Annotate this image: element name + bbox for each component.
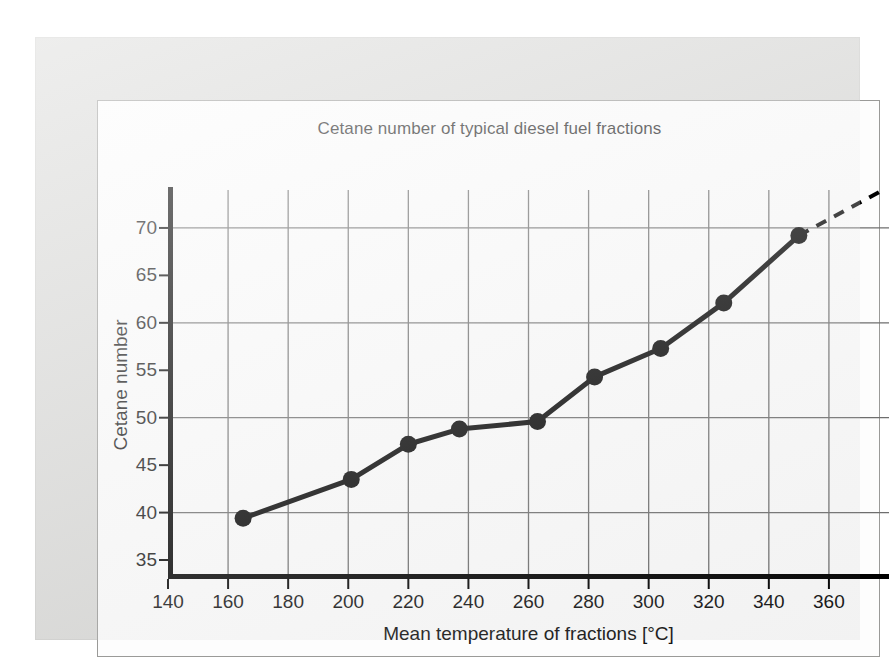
x-tick-label: 220 bbox=[392, 591, 424, 613]
x-tick-label: 260 bbox=[513, 591, 545, 613]
data-point-marker bbox=[451, 421, 468, 438]
x-tick-label: 280 bbox=[573, 591, 605, 613]
x-tick-label: 240 bbox=[453, 591, 485, 613]
y-tick-label: 35 bbox=[136, 549, 157, 571]
series-line-dashed bbox=[799, 190, 883, 236]
y-tick-label: 65 bbox=[136, 264, 157, 286]
x-tick-label: 200 bbox=[332, 591, 364, 613]
x-tick-label: 160 bbox=[212, 591, 244, 613]
data-point-marker bbox=[400, 436, 417, 453]
plot-area: 3540455055606570 14016018020022024026028… bbox=[168, 190, 889, 579]
gridlines-layer bbox=[168, 190, 889, 579]
y-tick-label: 40 bbox=[136, 502, 157, 524]
x-tick-label: 300 bbox=[633, 591, 665, 613]
figure-outer-frame: Cetane number of typical diesel fuel fra… bbox=[35, 37, 860, 640]
data-point-marker bbox=[586, 368, 603, 385]
axis-ticks-layer bbox=[159, 228, 829, 589]
data-markers-layer bbox=[235, 227, 808, 527]
x-axis-title: Mean temperature of fractions [°C] bbox=[168, 623, 889, 645]
y-tick-label: 55 bbox=[136, 359, 157, 381]
data-point-marker bbox=[343, 471, 360, 488]
x-tick-label: 320 bbox=[693, 591, 725, 613]
y-tick-label: 45 bbox=[136, 454, 157, 476]
y-tick-label: 60 bbox=[136, 312, 157, 334]
data-point-marker bbox=[529, 413, 546, 430]
data-series-layer bbox=[243, 190, 883, 518]
data-point-marker bbox=[715, 294, 732, 311]
x-tick-label: 360 bbox=[813, 591, 845, 613]
y-tick-label: 50 bbox=[136, 407, 157, 429]
plot-canvas bbox=[168, 190, 889, 579]
figure-inner-panel: Cetane number of typical diesel fuel fra… bbox=[97, 100, 880, 657]
data-point-marker bbox=[235, 510, 252, 527]
x-tick-label: 340 bbox=[753, 591, 785, 613]
y-axis-title: Cetane number bbox=[110, 319, 132, 450]
x-tick-label: 180 bbox=[272, 591, 304, 613]
chart-title: Cetane number of typical diesel fuel fra… bbox=[98, 119, 881, 139]
y-tick-label: 70 bbox=[136, 217, 157, 239]
series-line bbox=[243, 236, 799, 519]
x-tick-label: 140 bbox=[152, 591, 184, 613]
figure-root: Cetane number of typical diesel fuel fra… bbox=[0, 0, 894, 664]
data-point-marker bbox=[652, 340, 669, 357]
data-point-marker bbox=[790, 227, 807, 244]
